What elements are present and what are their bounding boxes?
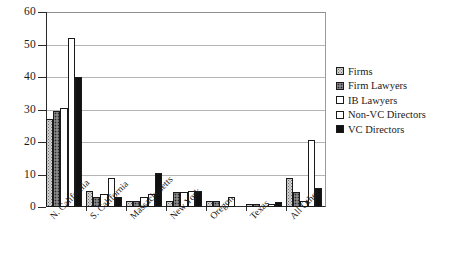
y-axis-tick-label: 20 <box>0 136 36 148</box>
bar <box>166 201 173 208</box>
bar-group <box>86 12 126 207</box>
bar-group <box>286 12 326 207</box>
y-axis-tick <box>38 12 46 13</box>
legend-item: Firm Lawyers <box>336 79 426 94</box>
bar <box>68 38 75 207</box>
legend-label: Firm Lawyers <box>348 80 407 91</box>
y-axis-tick-label: 30 <box>0 104 36 116</box>
y-axis-tick-label: 10 <box>0 169 36 181</box>
bars-layer <box>46 12 326 207</box>
bar <box>126 201 133 208</box>
legend-swatch-icon <box>336 96 344 104</box>
bar-group <box>246 12 286 207</box>
y-axis-tick <box>38 175 46 176</box>
legend-item: Firms <box>336 64 426 79</box>
legend-label: IB Lawyers <box>348 95 397 106</box>
x-axis-tick <box>206 207 207 211</box>
legend-label: Firms <box>348 66 373 77</box>
y-axis-tick-label: 50 <box>0 39 36 51</box>
legend-label: Non-VC Directors <box>348 109 426 120</box>
x-axis-tick <box>126 207 127 211</box>
x-axis-tick <box>166 207 167 211</box>
legend-item: Non-VC Directors <box>336 108 426 123</box>
x-axis-tick <box>286 207 287 211</box>
x-axis-tick <box>246 207 247 211</box>
y-axis-tick <box>38 110 46 111</box>
bar <box>46 119 53 207</box>
bar <box>53 111 60 207</box>
bar-group <box>46 12 86 207</box>
bar <box>60 108 67 207</box>
bar <box>275 202 282 207</box>
legend: FirmsFirm LawyersIB LawyersNon-VC Direct… <box>336 64 426 137</box>
bar-chart: 6050403020100 N. CaliforniaS. California… <box>0 0 449 280</box>
y-axis-tick <box>38 77 46 78</box>
legend-swatch-icon <box>336 125 344 133</box>
legend-item: IB Lawyers <box>336 93 426 108</box>
bar-group <box>126 12 166 207</box>
bar <box>86 191 93 207</box>
legend-swatch-icon <box>336 82 344 90</box>
legend-label: VC Directors <box>348 124 404 135</box>
legend-swatch-icon <box>336 111 344 119</box>
y-axis-tick-label: 0 <box>0 201 36 213</box>
legend-item: VC Directors <box>336 122 426 137</box>
y-axis-tick <box>38 142 46 143</box>
bar-group <box>206 12 246 207</box>
bar <box>206 201 213 208</box>
bar <box>286 178 293 207</box>
y-axis-tick <box>38 207 46 208</box>
y-axis-tick <box>38 45 46 46</box>
legend-swatch-icon <box>336 67 344 75</box>
y-axis-tick-label: 60 <box>0 6 36 18</box>
x-axis-tick <box>86 207 87 211</box>
bar <box>246 204 253 207</box>
y-axis-tick-label: 40 <box>0 71 36 83</box>
